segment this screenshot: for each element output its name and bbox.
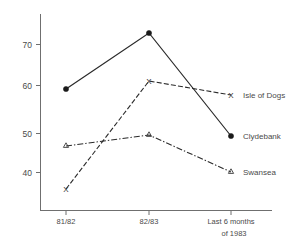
data-point-clydebank-2 (146, 30, 151, 35)
data-point-isle-of-dogs-3: X (228, 91, 234, 100)
data-point-clydebank-3 (228, 133, 233, 138)
y-tick-label-60: 60 (23, 81, 33, 91)
series-label-isle-of-dogs: Isle of Dogs (243, 91, 285, 100)
series-line-swansea (66, 135, 231, 172)
x-tick-label-3-line2: of 1983 (221, 229, 246, 238)
x-tick-label-1: 81/82 (57, 217, 76, 226)
data-point-swansea-1 (63, 143, 68, 148)
line-chart: 70 60 50 40 81/82 82/83 Last 6 months of… (0, 0, 286, 245)
y-tick-label-70: 70 (23, 40, 33, 50)
chart-plot-area: 70 60 50 40 81/82 82/83 Last 6 months of… (0, 0, 286, 245)
data-point-clydebank-1 (63, 86, 68, 91)
series-label-clydebank: Clydebank (243, 132, 282, 141)
data-point-isle-of-dogs-1: X (63, 185, 69, 194)
series-label-swansea: Swansea (243, 168, 276, 177)
y-tick-label-50: 50 (23, 129, 33, 139)
y-tick-label-40: 40 (23, 168, 33, 178)
x-tick-label-3: Last 6 months (207, 217, 254, 226)
data-point-swansea-2 (146, 132, 151, 137)
x-tick-label-2: 82/83 (140, 217, 159, 226)
data-point-isle-of-dogs-2: X (146, 77, 152, 86)
